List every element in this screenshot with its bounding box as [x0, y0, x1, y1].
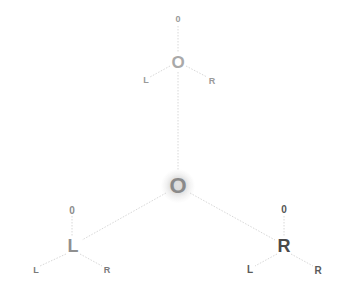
left-node-left-child-label: L	[33, 266, 39, 275]
top-node-top-child-label: 0	[175, 15, 180, 24]
edge-top-to-left-child	[150, 66, 170, 77]
edge-right-to-left-child	[255, 254, 277, 266]
center-node-label: O	[169, 175, 186, 197]
edge-top-to-right-child	[186, 66, 207, 77]
top-node-right-child-label: R	[209, 77, 216, 86]
top-node-left-child-label: L	[143, 76, 149, 85]
edge-center-to-left	[82, 193, 166, 240]
right-node-left-child-label: L	[247, 265, 253, 275]
diagram-edges	[0, 0, 355, 299]
edge-right-to-right-child	[291, 254, 313, 266]
left-node-right-child-label: R	[104, 266, 111, 275]
edge-left-to-left-child	[40, 254, 66, 266]
left-node-label: L	[68, 237, 79, 255]
right-node-top-child-label: 0	[281, 205, 287, 215]
right-node-right-child-label: R	[314, 266, 321, 276]
top-node-label: O	[171, 54, 184, 71]
edge-left-to-right-child	[80, 254, 102, 266]
left-node-top-child-label: 0	[69, 206, 75, 216]
right-node-label: R	[278, 237, 291, 255]
edge-center-to-right	[190, 193, 275, 240]
